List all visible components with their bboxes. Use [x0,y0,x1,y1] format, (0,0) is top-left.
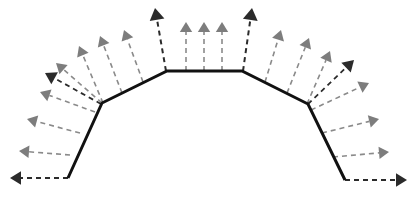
figure-canvas [0,0,417,199]
normal-vector-diagram [0,0,417,199]
